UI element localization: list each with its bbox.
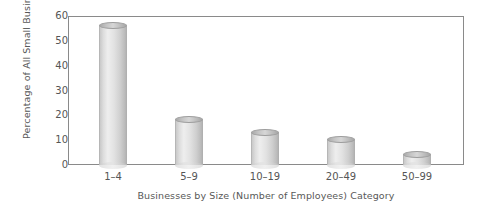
x-tick-label-0: 1–4 [80,170,146,184]
x-axis-tick-labels: 1–4 5–9 10–19 20–49 50–99 [68,170,464,184]
bar-slot-1 [156,16,222,165]
y-tick-30: 30 [55,85,68,97]
bar-chart: Percentage of All Small Business 60 50 4… [0,0,477,222]
y-tick-label: 60 [55,10,68,22]
bar-top-ellipse [251,129,279,136]
x-tick-label-3: 20–49 [308,170,374,184]
y-tick-60: 60 [55,10,68,22]
x-axis-title: Businesses by Size (Number of Employees)… [68,190,464,201]
bar-slot-3 [308,16,374,165]
bar-base-ellipse [251,162,279,169]
bar-top-ellipse [327,136,355,143]
bar-base-ellipse [99,162,127,169]
y-tick-label: 50 [55,35,68,47]
bar-slot-4 [384,16,450,165]
y-tick-20: 20 [55,109,68,121]
bar-1-4 [99,26,127,165]
bar-top-ellipse [403,151,431,158]
bar-base-ellipse [175,162,203,169]
y-axis-title-line-2: Small Business [21,0,32,54]
y-axis-title-line-1: Percentage of All [21,57,32,139]
bar-10-19 [251,133,279,165]
bar-20-49 [327,140,355,165]
y-tick-10: 10 [55,134,68,146]
x-tick-label-1: 5–9 [156,170,222,184]
bar-top-ellipse [99,22,127,29]
bar-50-99 [403,155,431,165]
bar-top-ellipse [175,116,203,123]
bar-base-ellipse [403,162,431,169]
bar-slot-2 [232,16,298,165]
y-tick-40: 40 [55,60,68,72]
x-tick-label-4: 50–99 [384,170,450,184]
bars-layer [68,16,464,165]
y-axis-title: Percentage of All Small Business [8,0,44,130]
y-tick-50: 50 [55,35,68,47]
y-tick-label: 30 [55,85,68,97]
y-tick-label: 20 [55,109,68,121]
x-tick-label-2: 10–19 [232,170,298,184]
y-tick-label: 10 [55,134,68,146]
bar-base-ellipse [327,162,355,169]
y-tick-label: 40 [55,60,68,72]
bar-5-9 [175,120,203,165]
y-axis-tick-labels: 60 50 40 30 20 10 0 [42,16,68,165]
bar-slot-0 [80,16,146,165]
